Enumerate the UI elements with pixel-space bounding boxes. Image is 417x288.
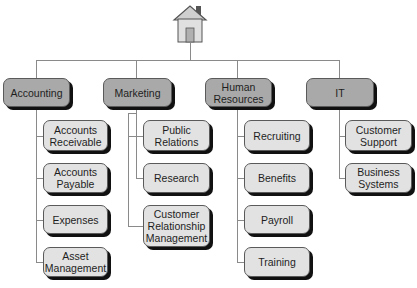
node-asset-management: Asset Management	[43, 247, 108, 277]
node-label: Research	[154, 172, 199, 184]
connector	[136, 178, 143, 179]
node-label: Payroll	[261, 214, 293, 226]
node-label: Accounts Payable	[52, 166, 99, 190]
drop-hr	[237, 60, 238, 78]
hr-trunk	[237, 107, 238, 262]
node-label: Training	[258, 256, 296, 268]
node-research: Research	[143, 163, 210, 193]
node-accounts-payable: Accounts Payable	[43, 163, 108, 193]
dept-label: IT	[335, 87, 344, 99]
node-customer-support: Customer Support	[345, 120, 412, 151]
it-trunk	[339, 107, 340, 178]
node-label: Customer Relationship Management	[146, 208, 207, 244]
node-label: Benefits	[258, 172, 296, 184]
connector	[237, 262, 244, 263]
connector	[237, 220, 244, 221]
node-label: Expenses	[52, 214, 98, 226]
dept-human-resources: Human Resources	[205, 78, 272, 107]
connector	[36, 136, 43, 137]
top-bus	[36, 60, 340, 61]
root-stem	[190, 43, 191, 60]
node-recruiting: Recruiting	[244, 120, 310, 151]
node-training: Training	[244, 247, 310, 277]
dept-accounting: Accounting	[3, 78, 70, 107]
node-label: Recruiting	[253, 130, 300, 142]
connector	[36, 262, 43, 263]
node-customer-relationship-management: Customer Relationship Management	[143, 205, 210, 247]
dept-label: Accounting	[11, 87, 63, 99]
dept-marketing: Marketing	[103, 78, 172, 107]
dept-label: Human Resources	[213, 81, 263, 105]
connector	[237, 178, 244, 179]
node-benefits: Benefits	[244, 163, 310, 193]
node-accounts-receivable: Accounts Receivable	[43, 120, 108, 151]
node-label: Business Systems	[356, 166, 401, 190]
node-label: Public Relations	[154, 124, 199, 148]
dept-label: Marketing	[114, 87, 160, 99]
marketing-trunk-2	[128, 113, 129, 226]
house-icon	[170, 4, 210, 44]
connector	[237, 136, 244, 137]
node-label: Customer Support	[354, 124, 403, 148]
connector	[128, 113, 136, 114]
drop-marketing	[136, 60, 137, 78]
connector	[128, 226, 143, 227]
drop-accounting	[36, 60, 37, 78]
node-label: Asset Management	[45, 250, 106, 274]
node-expenses: Expenses	[43, 205, 108, 234]
accounting-trunk	[36, 107, 37, 262]
connector	[36, 220, 43, 221]
node-business-systems: Business Systems	[345, 163, 412, 193]
connector	[36, 178, 43, 179]
marketing-trunk	[136, 107, 137, 178]
node-payroll: Payroll	[244, 205, 310, 234]
connector	[128, 136, 143, 137]
node-public-relations: Public Relations	[143, 120, 210, 151]
drop-it	[339, 60, 340, 78]
dept-it: IT	[306, 78, 374, 107]
node-label: Accounts Receivable	[50, 124, 102, 148]
